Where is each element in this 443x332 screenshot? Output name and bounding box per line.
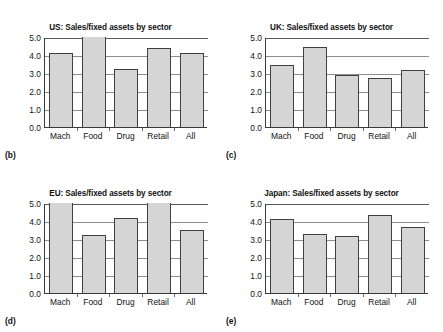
bar-slot-all (397, 203, 429, 293)
x-tick-label-all: All (396, 131, 428, 141)
bar-eu-retail[interactable] (147, 203, 171, 293)
bar-uk-drug[interactable] (335, 75, 359, 127)
y-tick-label: 2.0 (250, 87, 262, 97)
bar-slot-retail (143, 37, 175, 127)
bar-slot-food (78, 37, 110, 127)
y-tick-label: 0.0 (250, 123, 262, 133)
y-tick-label: 2.0 (29, 253, 41, 263)
x-tick-label-all: All (396, 297, 428, 307)
bar-uk-mach[interactable] (270, 65, 294, 127)
bar-japan-food[interactable] (303, 234, 327, 293)
bar-group-eu (45, 203, 208, 293)
x-tick-label-retail: Retail (142, 131, 174, 141)
bar-group-japan (266, 203, 429, 293)
x-tick-label-drug: Drug (331, 131, 363, 141)
y-tick-label: 4.0 (250, 51, 262, 61)
y-tick-label: 2.0 (250, 253, 262, 263)
y-tick-label: 0.0 (250, 289, 262, 299)
subfigure-label-japan: (e) (226, 316, 236, 326)
bar-eu-all[interactable] (180, 230, 204, 293)
x-tick-label-drug: Drug (110, 297, 142, 307)
chart-panel-japan: Japan: Sales/fixed assets by sector0.01.… (221, 166, 442, 332)
subfigure-label-uk: (c) (226, 150, 236, 160)
x-tick-label-mach: Mach (44, 131, 76, 141)
y-tick-label: 5.0 (250, 199, 262, 209)
y-tick-label: 4.0 (29, 217, 41, 227)
bar-japan-mach[interactable] (270, 219, 294, 293)
bar-slot-all (176, 37, 208, 127)
x-tick-label-food: Food (298, 131, 330, 141)
bar-uk-all[interactable] (401, 70, 425, 127)
x-tick-label-mach: Mach (265, 131, 297, 141)
y-tick-label: 4.0 (250, 217, 262, 227)
x-tick-label-retail: Retail (142, 297, 174, 307)
y-tick-label: 3.0 (29, 69, 41, 79)
plot-area-uk: 0.01.02.03.04.05.0 (265, 38, 428, 128)
subfigure-label-eu: (d) (5, 316, 16, 326)
bar-slot-retail (143, 203, 175, 293)
subfigure-label-us: (b) (5, 150, 16, 160)
bar-slot-all (176, 203, 208, 293)
x-tick-label-drug: Drug (110, 131, 142, 141)
bar-slot-all (397, 37, 429, 127)
bar-uk-food[interactable] (303, 47, 327, 127)
x-axis-labels-uk: MachFoodDrugRetailAll (265, 131, 428, 141)
y-tick-label: 1.0 (250, 105, 262, 115)
y-tick-label: 0.0 (29, 289, 41, 299)
y-tick-label: 1.0 (250, 271, 262, 281)
panel-title-japan: Japan: Sales/fixed assets by sector (221, 189, 442, 198)
x-tick-label-mach: Mach (44, 297, 76, 307)
bar-slot-drug (332, 203, 364, 293)
x-tick-label-mach: Mach (265, 297, 297, 307)
bar-eu-food[interactable] (82, 235, 106, 293)
x-tick-label-retail: Retail (363, 131, 395, 141)
bar-slot-drug (332, 37, 364, 127)
bar-group-us (45, 37, 208, 127)
bar-us-retail[interactable] (147, 48, 171, 127)
bar-uk-retail[interactable] (368, 78, 392, 128)
y-tick-label: 5.0 (29, 33, 41, 43)
y-tick-label: 1.0 (29, 271, 41, 281)
y-tick-label: 3.0 (250, 69, 262, 79)
x-tick-label-all: All (175, 297, 207, 307)
y-tick-label: 5.0 (250, 33, 262, 43)
x-axis-labels-us: MachFoodDrugRetailAll (44, 131, 207, 141)
bar-slot-mach (45, 203, 77, 293)
bar-us-drug[interactable] (114, 69, 138, 127)
x-tick-label-retail: Retail (363, 297, 395, 307)
y-tick-label: 0.0 (29, 123, 41, 133)
bar-slot-food (78, 203, 110, 293)
plot-area-us: 0.01.02.03.04.05.0 (44, 38, 207, 128)
bar-eu-drug[interactable] (114, 218, 138, 293)
chart-panel-uk: UK: Sales/fixed assets by sector0.01.02.… (221, 0, 442, 166)
bar-us-food[interactable] (82, 37, 106, 127)
bar-japan-drug[interactable] (335, 236, 359, 293)
bar-us-mach[interactable] (49, 53, 73, 127)
y-tick-label: 3.0 (29, 235, 41, 245)
y-tick-label: 4.0 (29, 51, 41, 61)
panel-title-eu: EU: Sales/fixed assets by sector (0, 189, 221, 198)
chart-panel-us: US: Sales/fixed assets by sector0.01.02.… (0, 0, 221, 166)
x-axis-labels-eu: MachFoodDrugRetailAll (44, 297, 207, 307)
bar-japan-all[interactable] (401, 227, 425, 293)
bar-slot-drug (111, 37, 143, 127)
bar-japan-retail[interactable] (368, 215, 392, 293)
y-tick-label: 1.0 (29, 105, 41, 115)
x-tick-label-drug: Drug (331, 297, 363, 307)
panel-title-uk: UK: Sales/fixed assets by sector (221, 23, 442, 32)
x-tick-label-all: All (175, 131, 207, 141)
bar-group-uk (266, 37, 429, 127)
bar-slot-retail (364, 203, 396, 293)
bar-slot-drug (111, 203, 143, 293)
bar-slot-mach (266, 37, 298, 127)
plot-area-eu: 0.01.02.03.04.05.0 (44, 204, 207, 294)
x-tick-label-food: Food (298, 297, 330, 307)
bar-eu-mach[interactable] (49, 203, 73, 293)
y-tick-label: 2.0 (29, 87, 41, 97)
bar-us-all[interactable] (180, 53, 204, 127)
y-tick-label: 5.0 (29, 199, 41, 209)
bar-slot-mach (266, 203, 298, 293)
bar-slot-food (299, 203, 331, 293)
x-tick-label-food: Food (77, 131, 109, 141)
plot-area-japan: 0.01.02.03.04.05.0 (265, 204, 428, 294)
